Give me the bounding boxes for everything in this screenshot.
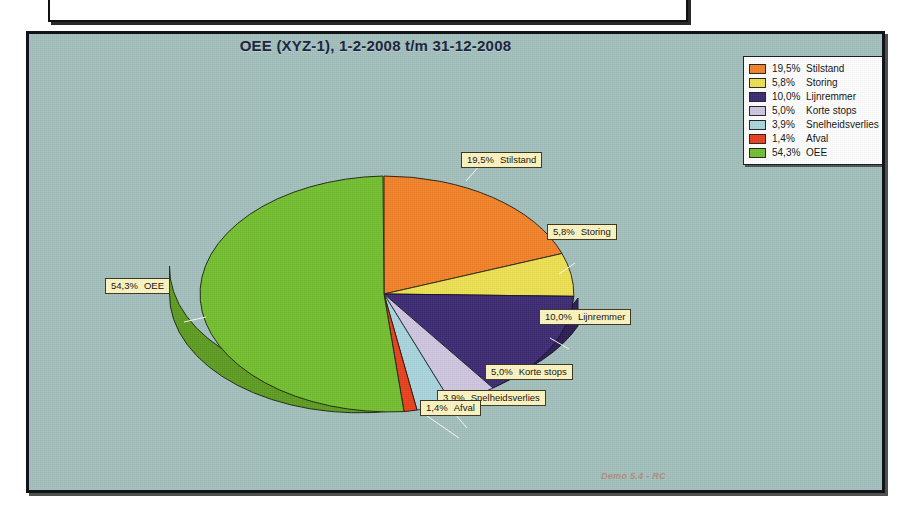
chart-panel: OEE (XYZ-1), 1-2-2008 t/m 31-12-2008 <box>26 31 885 493</box>
legend-swatch-oee <box>749 148 766 158</box>
legend-swatch-lijnremmer <box>749 92 766 102</box>
callout-stilstand-pct: 19,5% <box>467 154 494 165</box>
callout-storing-label: Storing <box>581 226 611 237</box>
legend-item-korte-stops: 5,0% Korte stops <box>749 104 879 117</box>
legend-item-oee: 54,3% OEE <box>749 146 879 159</box>
callout-afval: 1,4%Afval <box>420 400 481 416</box>
legend-swatch-korte-stops <box>749 106 766 116</box>
callout-lijnremmer-pct: 10,0% <box>545 311 572 322</box>
legend-swatch-stilstand <box>749 64 766 74</box>
callout-korte-stops-pct: 5,0% <box>491 366 513 377</box>
callout-stilstand-label: Stilstand <box>500 154 536 165</box>
legend-label-lijnremmer: Lijnremmer <box>806 91 856 102</box>
top-partial-panel <box>48 0 688 22</box>
legend-label-afval: Afval <box>806 133 828 144</box>
legend-pct-lijnremmer: 10,0% <box>772 91 806 102</box>
callout-afval-pct: 1,4% <box>426 402 448 413</box>
callout-lijnremmer-label: Lijnremmer <box>578 311 626 322</box>
legend-label-stilstand: Stilstand <box>806 63 844 74</box>
callout-snelheidsverlies-label: Snelheidsverlies <box>471 392 540 403</box>
legend-item-lijnremmer: 10,0% Lijnremmer <box>749 90 879 103</box>
legend-pct-snelheidsverlies: 3,9% <box>772 119 806 130</box>
legend-pct-stilstand: 19,5% <box>772 63 806 74</box>
callout-korte-stops-label: Korte stops <box>519 366 567 377</box>
chart-legend: 19,5% Stilstand 5,8% Storing 10,0% Lijnr… <box>743 56 885 165</box>
callout-oee-label: OEE <box>144 280 164 291</box>
callout-lijnremmer: 10,0%Lijnremmer <box>539 309 631 325</box>
legend-label-oee: OEE <box>806 147 827 158</box>
legend-swatch-storing <box>749 78 766 88</box>
legend-item-stilstand: 19,5% Stilstand <box>749 62 879 75</box>
legend-pct-oee: 54,3% <box>772 147 806 158</box>
legend-pct-afval: 1,4% <box>772 133 806 144</box>
legend-label-storing: Storing <box>806 77 838 88</box>
legend-item-afval: 1,4% Afval <box>749 132 879 145</box>
watermark: Demo 5.4 - RC <box>601 471 666 481</box>
callout-korte-stops: 5,0%Korte stops <box>485 364 573 380</box>
callout-storing: 5,8%Storing <box>547 224 617 240</box>
legend-label-snelheidsverlies: Snelheidsverlies <box>806 119 879 130</box>
callout-oee-pct: 54,3% <box>111 280 138 291</box>
legend-item-storing: 5,8% Storing <box>749 76 879 89</box>
callout-oee: 54,3%OEE <box>105 278 170 294</box>
callout-afval-label: Afval <box>454 402 475 413</box>
legend-item-snelheidsverlies: 3,9% Snelheidsverlies <box>749 118 879 131</box>
callout-stilstand: 19,5%Stilstand <box>461 152 542 168</box>
legend-swatch-snelheidsverlies <box>749 120 766 130</box>
legend-pct-storing: 5,8% <box>772 77 806 88</box>
legend-label-korte-stops: Korte stops <box>806 105 857 116</box>
legend-pct-korte-stops: 5,0% <box>772 105 806 116</box>
callout-storing-pct: 5,8% <box>553 226 575 237</box>
legend-swatch-afval <box>749 134 766 144</box>
